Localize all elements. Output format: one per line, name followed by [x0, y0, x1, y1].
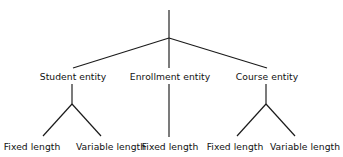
node-label-course-entity: Course entity	[236, 71, 299, 82]
edge-student-to-fixed-length	[43, 104, 72, 136]
leaf-label-course-variable-length: Variable length	[270, 141, 340, 152]
edge-course-to-variable-length	[266, 104, 295, 136]
leaf-label-enrollment-fixed-length: Fixed length	[142, 141, 199, 152]
edge-root-to-course-entity	[169, 38, 267, 68]
node-label-student-entity: Student entity	[40, 71, 107, 82]
leaf-label-student-fixed-length: Fixed length	[4, 141, 61, 152]
leaf-label-student-variable-length: Variable length	[76, 141, 146, 152]
node-label-enrollment-entity: Enrollment entity	[130, 71, 211, 82]
edge-student-to-variable-length	[72, 104, 101, 136]
hierarchy-diagram: Student entity Enrollment entity Course …	[0, 0, 343, 157]
tree-svg-canvas: Student entity Enrollment entity Course …	[0, 0, 343, 157]
edge-root-to-student-entity	[73, 38, 169, 68]
leaf-label-course-fixed-length: Fixed length	[207, 141, 264, 152]
edge-course-to-fixed-length	[237, 104, 266, 136]
